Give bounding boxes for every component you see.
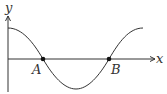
point-a-marker — [41, 57, 46, 62]
point-a-label: A — [32, 63, 41, 76]
point-b-label: B — [111, 63, 121, 76]
point-b-marker — [107, 57, 112, 62]
graph-canvas — [0, 0, 167, 94]
x-axis-label: x — [156, 52, 163, 65]
cosine-graph-diagram: y x A B — [0, 0, 167, 94]
y-axis-label: y — [5, 1, 12, 14]
